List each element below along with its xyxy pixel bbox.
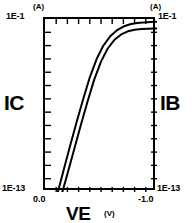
x-axis-title: VE (66, 203, 90, 223)
left-axis-title: IC (4, 91, 24, 115)
right-axis-title: IB (160, 91, 180, 115)
right-axis-unit-label: (A) (150, 2, 161, 11)
gummel-plot-figure: (A) (A) 1E-1 1E-1 1E-13 1E-13 IC IB VE (… (0, 0, 192, 223)
left-axis-max-label: 1E-1 (6, 11, 24, 21)
x-axis-unit-label: (V) (104, 209, 115, 218)
right-axis-min-label: 1E-13 (157, 183, 180, 193)
x-axis-end-label: -1.0 (138, 194, 154, 204)
plot-area (43, 17, 155, 190)
curve-ib (62, 28, 157, 192)
left-axis-unit-label: (A) (33, 2, 44, 11)
plot-canvas (45, 19, 157, 192)
data-curves (58, 22, 157, 192)
right-axis-max-label: 1E-1 (158, 11, 176, 21)
x-axis-start-label: 0.0 (33, 194, 46, 204)
left-axis-min-label: 1E-13 (2, 183, 25, 193)
axis-ticks (45, 19, 157, 192)
